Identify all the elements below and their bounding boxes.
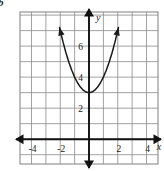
x-axis-tick-label: -2 xyxy=(57,144,65,154)
y-axis-label: y xyxy=(95,12,101,23)
graph-figure: b -4-224246 xy xyxy=(0,0,164,171)
x-axis-tick-label: 4 xyxy=(145,144,150,154)
y-axis-tick-label: 6 xyxy=(78,42,83,52)
chart-background xyxy=(0,0,164,171)
y-axis-tick-label: 2 xyxy=(78,104,83,114)
x-axis-tick-label: 2 xyxy=(116,144,121,154)
y-axis-tick-label: 4 xyxy=(78,73,83,83)
x-axis-label: x xyxy=(156,141,162,152)
coordinate-plane-graph: -4-224246 xy xyxy=(0,0,164,171)
figure-label: b xyxy=(0,0,7,9)
x-axis-tick-label: -4 xyxy=(29,144,37,154)
